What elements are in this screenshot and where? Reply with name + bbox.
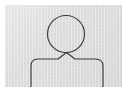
shoulders-icon bbox=[31, 53, 103, 88]
avatar-plate: Generic person silhouette outline bbox=[5, 5, 122, 87]
person-placeholder-icon bbox=[5, 5, 122, 87]
screenshot-root: Generic person silhouette outline bbox=[0, 0, 124, 87]
avatar-frame: Generic person silhouette outline bbox=[0, 0, 124, 87]
head-icon bbox=[48, 16, 85, 53]
